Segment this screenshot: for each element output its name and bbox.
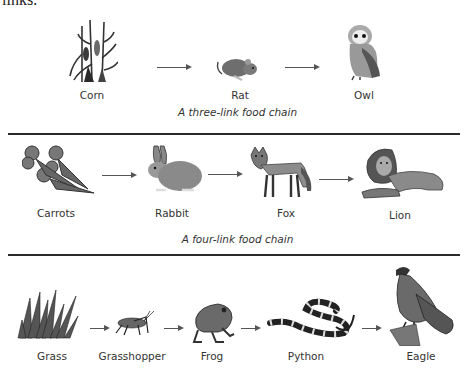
chain-caption: A four-link food chain	[0, 233, 475, 245]
eagle-icon	[386, 264, 458, 346]
organism-label-grasshopper: Grasshopper	[98, 350, 165, 362]
fox-icon	[247, 147, 317, 201]
divider	[8, 254, 460, 256]
divider	[8, 133, 460, 135]
organism-label-owl: Owl	[354, 89, 374, 101]
organism-label-eagle: Eagle	[406, 350, 435, 362]
organism-label-lion: Lion	[389, 209, 411, 221]
arrow-icon	[362, 324, 382, 332]
organism-label-rabbit: Rabbit	[155, 207, 189, 219]
arrow-icon	[285, 63, 320, 71]
grass-icon	[16, 290, 82, 340]
organism-label-frog: Frog	[201, 350, 223, 362]
owl-icon	[342, 22, 386, 82]
carrots-icon	[22, 145, 98, 197]
arrow-icon	[319, 175, 354, 183]
frog-icon	[190, 302, 236, 344]
lion-icon	[358, 146, 446, 200]
organism-label-python: Python	[288, 350, 324, 362]
arrow-icon	[90, 324, 110, 332]
organism-label-carrots: Carrots	[37, 207, 75, 219]
arrow-icon	[208, 170, 243, 178]
organism-label-grass: Grass	[37, 350, 67, 362]
arrow-icon	[157, 63, 192, 71]
arrow-icon	[241, 324, 261, 332]
python-icon	[266, 297, 356, 347]
clipped-heading-fragment: links:	[2, 0, 38, 9]
arrow-icon	[102, 171, 137, 179]
arrow-icon	[164, 324, 184, 332]
chain-caption: A three-link food chain	[0, 106, 475, 118]
rat-icon	[214, 52, 262, 82]
corn-icon	[68, 14, 118, 84]
organism-label-corn: Corn	[80, 89, 105, 101]
organism-label-fox: Fox	[277, 207, 295, 219]
organism-label-rat: Rat	[231, 89, 249, 101]
grasshopper-icon	[114, 311, 158, 337]
rabbit-icon	[142, 144, 204, 194]
